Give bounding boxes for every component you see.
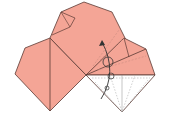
origami-diagram [0,0,170,119]
white-triangle [86,75,155,112]
